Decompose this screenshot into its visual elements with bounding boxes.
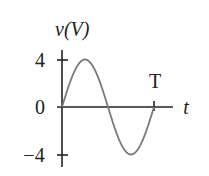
y-tick-label-neg4: −4	[23, 144, 44, 166]
x-tick-label-T: T	[149, 70, 161, 92]
x-axis-label: t	[183, 96, 189, 118]
y-tick-label-4: 4	[35, 49, 45, 71]
y-tick-label-0: 0	[35, 96, 45, 118]
chart: v(V) 4 0 −4 T t	[0, 0, 209, 176]
y-axis-label: v(V)	[55, 18, 90, 41]
